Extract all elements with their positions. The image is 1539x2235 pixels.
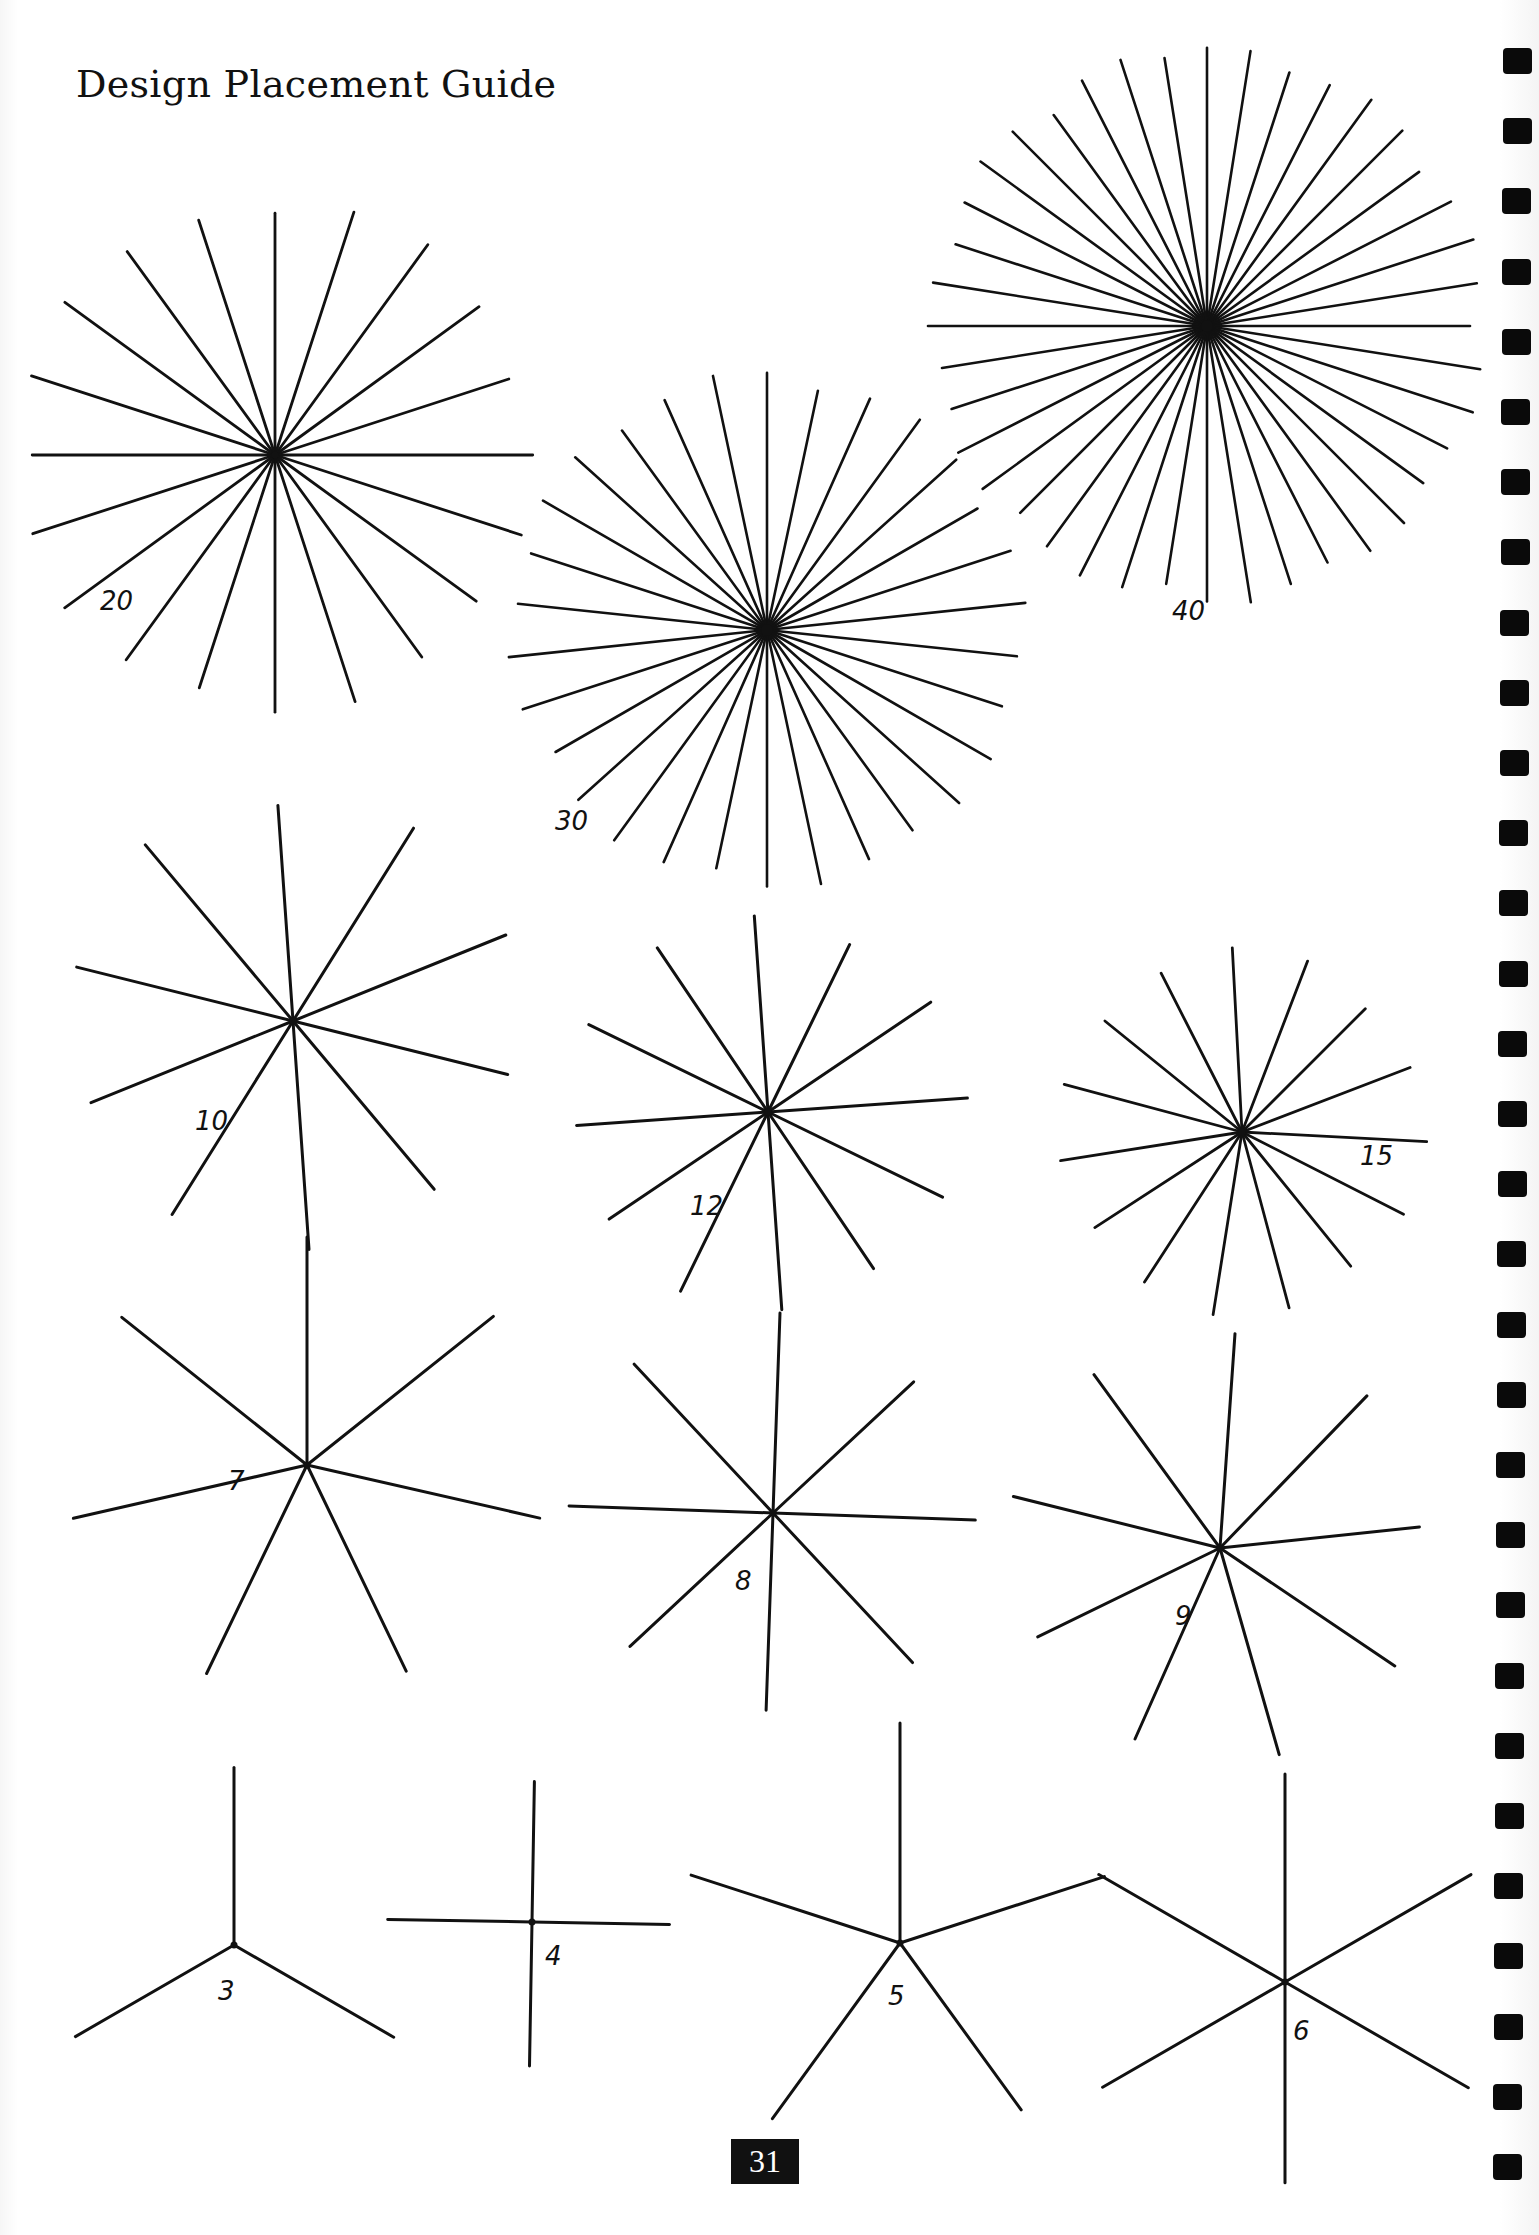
star-ray xyxy=(766,1513,773,1710)
star-ray xyxy=(275,455,521,535)
star-ray xyxy=(768,1112,943,1197)
star-ray xyxy=(1207,100,1371,326)
star-center-point xyxy=(231,1942,238,1949)
ray-count-label: 40 xyxy=(1172,596,1205,626)
star-ray xyxy=(1095,1132,1242,1228)
star-ray xyxy=(275,245,428,455)
star-ray xyxy=(1220,1527,1419,1548)
star-ray xyxy=(1038,1548,1220,1637)
star-center-point xyxy=(897,1940,904,1947)
star-ray xyxy=(768,1112,782,1310)
star-ray xyxy=(657,948,768,1112)
page-number-badge: 31 xyxy=(731,2139,799,2184)
star-guide-15-rays: 15 xyxy=(1061,948,1427,1315)
star-ray xyxy=(293,828,414,1021)
star-ray xyxy=(532,1922,670,1924)
star-ray xyxy=(275,455,355,702)
star-ray xyxy=(145,845,293,1021)
star-ray xyxy=(1013,132,1207,326)
star-ray xyxy=(578,630,767,800)
star-ray xyxy=(983,326,1207,489)
star-guide-8-rays: 8 xyxy=(569,1313,975,1710)
star-ray xyxy=(1207,326,1370,551)
star-ray xyxy=(234,1945,394,2037)
ray-count-label: 12 xyxy=(690,1191,723,1221)
star-center-point xyxy=(290,1018,297,1025)
star-ray xyxy=(630,1513,773,1646)
star-ray xyxy=(1285,1875,1471,1982)
star-center-point xyxy=(1239,1129,1246,1136)
star-guide-7-rays: 7 xyxy=(73,1237,539,1673)
star-ray xyxy=(589,1025,768,1112)
ray-count-label: 8 xyxy=(735,1566,752,1596)
ray-count-label: 20 xyxy=(100,586,133,616)
star-guide-6-rays: 6 xyxy=(1099,1774,1471,2183)
star-ray xyxy=(575,457,767,630)
star-ray xyxy=(1220,1334,1235,1548)
star-ray xyxy=(75,1945,234,2037)
star-ray xyxy=(609,1112,768,1219)
star-ray xyxy=(1099,1875,1285,1983)
star-guide-40-rays: 40 xyxy=(928,48,1480,626)
star-ray xyxy=(77,967,293,1021)
star-ray xyxy=(952,326,1207,409)
star-center-point xyxy=(272,452,279,459)
star-ray xyxy=(773,1382,914,1513)
star-ray xyxy=(664,630,767,862)
star-ray xyxy=(768,1112,874,1269)
star-ray xyxy=(1242,1132,1427,1142)
star-ray xyxy=(122,1317,307,1465)
star-ray xyxy=(275,307,479,455)
star-ray xyxy=(1207,131,1402,326)
star-center-point xyxy=(304,1462,311,1469)
star-ray xyxy=(1135,1548,1220,1739)
star-ray xyxy=(1105,1021,1242,1132)
star-ray xyxy=(1047,326,1207,546)
star-ray xyxy=(665,400,767,630)
star-guide-30-rays: 30 xyxy=(509,373,1025,887)
ray-count-label: 9 xyxy=(1175,1601,1192,1631)
ray-count-label: 6 xyxy=(1293,2016,1310,2046)
star-ray xyxy=(207,1465,307,1674)
star-ray xyxy=(278,805,293,1021)
star-ray xyxy=(956,244,1207,326)
star-ray xyxy=(1220,1396,1367,1548)
star-ray xyxy=(1054,115,1207,326)
star-ray xyxy=(767,630,959,803)
star-ray xyxy=(1207,326,1423,483)
star-ray xyxy=(767,399,870,630)
star-ray xyxy=(65,302,275,455)
star-ray xyxy=(199,220,275,455)
star-guide-9-rays: 9 xyxy=(1013,1334,1419,1755)
star-ray xyxy=(1207,326,1473,412)
star-ray xyxy=(388,1920,532,1923)
star-ray xyxy=(275,455,476,601)
star-ray xyxy=(773,1513,913,1663)
star-ray xyxy=(1207,326,1404,523)
star-ray xyxy=(1020,326,1207,513)
star-ray xyxy=(1145,1132,1243,1282)
star-guide-4-rays: 4 xyxy=(388,1782,670,2066)
star-ray xyxy=(1220,1548,1395,1666)
ray-count-label: 7 xyxy=(228,1466,245,1496)
star-ray xyxy=(275,212,354,455)
star-ray xyxy=(754,916,768,1112)
star-ray xyxy=(772,1943,900,2119)
star-ray xyxy=(1220,1548,1279,1755)
star-ray xyxy=(1213,1132,1242,1315)
star-ray xyxy=(1121,60,1208,326)
star-ray xyxy=(1103,1982,1285,2087)
star-ray xyxy=(773,1313,780,1513)
star-ray xyxy=(1207,73,1289,327)
star-ray xyxy=(1242,1068,1410,1133)
star-ray xyxy=(768,1098,967,1112)
ray-count-label: 5 xyxy=(888,1981,905,2011)
ray-count-label: 15 xyxy=(1360,1141,1393,1171)
star-center-point xyxy=(1282,1979,1289,1986)
star-center-point xyxy=(529,1919,536,1926)
star-ray xyxy=(1122,326,1207,587)
star-ray xyxy=(307,1316,493,1465)
star-ray xyxy=(293,1021,309,1249)
star-center-point xyxy=(765,1109,772,1116)
star-ray xyxy=(1242,1132,1351,1266)
